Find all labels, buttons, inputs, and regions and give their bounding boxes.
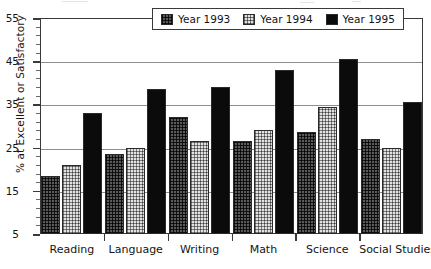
bar[interactable] — [62, 165, 81, 234]
bar[interactable] — [297, 132, 316, 234]
light-crosshatch-swatch — [243, 14, 255, 25]
y-tick-major — [33, 191, 40, 193]
x-axis-label: Science — [295, 243, 359, 256]
legend-item-1995[interactable]: Year 1995 — [326, 13, 395, 25]
bars-layer — [40, 18, 423, 234]
x-axis-label: Language — [104, 243, 168, 256]
bar-group — [233, 18, 294, 234]
legend-label: Year 1995 — [343, 13, 395, 25]
bar[interactable] — [190, 141, 209, 234]
legend-label: Year 1994 — [260, 13, 312, 25]
bar[interactable] — [147, 89, 166, 234]
scan-artifact — [352, 1, 361, 2]
legend-item-1994[interactable]: Year 1994 — [243, 13, 312, 25]
bar[interactable] — [105, 154, 124, 234]
bar-group — [41, 18, 102, 234]
x-axis-tick — [232, 234, 234, 241]
legend: Year 1993 Year 1994 Year 1995 — [152, 8, 404, 30]
scan-artifact — [300, 2, 314, 3]
bar[interactable] — [403, 102, 422, 234]
x-axis-label: Writing — [168, 243, 232, 256]
bar[interactable] — [83, 113, 102, 234]
x-axis-tick — [104, 234, 106, 241]
x-axis-label: Social Studies — [359, 243, 423, 256]
bar[interactable] — [382, 148, 401, 234]
bar[interactable] — [275, 70, 294, 234]
y-tick-major — [33, 61, 40, 63]
bar[interactable] — [169, 117, 188, 234]
scan-artifact — [62, 1, 88, 2]
y-tick-label: 55 — [0, 13, 19, 23]
bar[interactable] — [211, 87, 230, 234]
y-tick-label: 45 — [0, 56, 19, 66]
y-axis-title: % at Excellent or Satisfactory — [14, 0, 26, 194]
bar-chart: % at Excellent or Satisfactory 515253545… — [0, 0, 431, 269]
bar-group — [105, 18, 166, 234]
y-tick-label: 35 — [0, 99, 19, 109]
dark-crosshatch-swatch — [161, 14, 173, 25]
y-tick-major — [33, 234, 40, 236]
y-tick-label: 25 — [0, 143, 19, 153]
y-tick-label: 5 — [0, 229, 19, 239]
bar[interactable] — [318, 107, 337, 234]
bar-group — [361, 18, 422, 234]
x-axis-label: Math — [232, 243, 296, 256]
bar-group — [297, 18, 358, 234]
y-tick-major — [33, 18, 40, 20]
legend-item-1993[interactable]: Year 1993 — [161, 13, 230, 25]
bar[interactable] — [126, 148, 145, 234]
bar[interactable] — [339, 59, 358, 234]
x-axis-tick — [168, 234, 170, 241]
bar[interactable] — [41, 176, 60, 234]
x-axis-label: Reading — [40, 243, 104, 256]
y-tick-major — [33, 148, 40, 150]
x-axis-tick — [359, 234, 361, 241]
bar[interactable] — [254, 130, 273, 234]
y-tick-major — [33, 104, 40, 106]
bar[interactable] — [233, 141, 252, 234]
legend-label: Year 1993 — [178, 13, 230, 25]
y-tick-label: 15 — [0, 186, 19, 196]
x-axis-tick — [295, 234, 297, 241]
solid-black-swatch — [326, 14, 338, 25]
bar-group — [169, 18, 230, 234]
bar[interactable] — [361, 139, 380, 234]
